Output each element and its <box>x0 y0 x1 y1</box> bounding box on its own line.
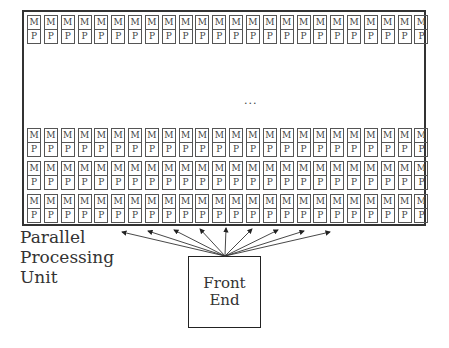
memory-cell: M <box>213 195 225 209</box>
processor-cell: P <box>62 209 74 222</box>
processor-cell: P <box>382 143 394 156</box>
label-line: Processing <box>20 247 114 267</box>
processor-cell: P <box>247 176 259 189</box>
broadcast-arrow <box>225 228 226 256</box>
processing-element: MP <box>61 194 75 223</box>
processing-element: MP <box>44 128 58 157</box>
processing-element: MP <box>364 128 378 157</box>
processor-cell: P <box>95 209 107 222</box>
label-line: Unit <box>20 267 114 287</box>
processing-element: MP <box>27 15 41 44</box>
parallel-processing-unit: MPMPMPMPMPMPMPMPMPMPMPMPMPMPMPMPMPMPMPMP… <box>22 10 426 226</box>
processing-element: MP <box>94 194 108 223</box>
processing-element: MP <box>414 161 428 190</box>
memory-cell: M <box>45 16 57 30</box>
processing-element: MP <box>212 128 226 157</box>
processor-cell: P <box>95 30 107 43</box>
processor-cell: P <box>146 176 158 189</box>
memory-cell: M <box>281 195 293 209</box>
processor-cell: P <box>62 30 74 43</box>
processor-cell: P <box>247 143 259 156</box>
processing-element: MP <box>179 161 193 190</box>
processor-cell: P <box>247 209 259 222</box>
processor-cell: P <box>281 209 293 222</box>
processor-cell: P <box>331 176 343 189</box>
processing-element: MP <box>297 15 311 44</box>
processor-cell: P <box>45 176 57 189</box>
pe-row: MPMPMPMPMPMPMPMPMPMPMPMPMPMPMPMPMPMPMPMP… <box>27 128 431 157</box>
processing-element: MP <box>128 194 142 223</box>
memory-cell: M <box>230 162 242 176</box>
memory-cell: M <box>415 16 427 30</box>
memory-cell: M <box>79 195 91 209</box>
processing-element: MP <box>111 194 125 223</box>
processing-element: MP <box>78 194 92 223</box>
processor-cell: P <box>180 30 192 43</box>
processor-cell: P <box>264 143 276 156</box>
memory-cell: M <box>180 129 192 143</box>
memory-cell: M <box>79 16 91 30</box>
memory-cell: M <box>62 162 74 176</box>
memory-cell: M <box>365 162 377 176</box>
processing-element: MP <box>313 161 327 190</box>
processing-element: MP <box>195 194 209 223</box>
processor-cell: P <box>399 30 411 43</box>
memory-cell: M <box>79 162 91 176</box>
memory-cell: M <box>281 129 293 143</box>
memory-cell: M <box>331 129 343 143</box>
memory-cell: M <box>298 16 310 30</box>
memory-cell: M <box>180 162 192 176</box>
processing-element: MP <box>179 194 193 223</box>
processor-cell: P <box>196 30 208 43</box>
memory-cell: M <box>264 16 276 30</box>
processor-cell: P <box>28 209 40 222</box>
memory-cell: M <box>129 16 141 30</box>
processor-cell: P <box>281 30 293 43</box>
processor-cell: P <box>95 176 107 189</box>
processor-cell: P <box>348 176 360 189</box>
processing-element: MP <box>162 194 176 223</box>
memory-cell: M <box>399 16 411 30</box>
memory-cell: M <box>196 195 208 209</box>
memory-cell: M <box>28 195 40 209</box>
memory-cell: M <box>314 195 326 209</box>
memory-cell: M <box>112 129 124 143</box>
processing-element: MP <box>246 194 260 223</box>
processing-element: MP <box>398 128 412 157</box>
memory-cell: M <box>331 162 343 176</box>
processing-element: MP <box>61 128 75 157</box>
processing-element: MP <box>246 161 260 190</box>
processing-element: MP <box>61 15 75 44</box>
processing-element: MP <box>111 161 125 190</box>
processor-cell: P <box>264 30 276 43</box>
processing-element: MP <box>381 161 395 190</box>
processor-cell: P <box>196 176 208 189</box>
processor-cell: P <box>180 176 192 189</box>
processing-element: MP <box>414 15 428 44</box>
processing-element: MP <box>27 194 41 223</box>
memory-cell: M <box>112 16 124 30</box>
processor-cell: P <box>382 30 394 43</box>
pe-row: MPMPMPMPMPMPMPMPMPMPMPMPMPMPMPMPMPMPMPMP… <box>27 194 431 223</box>
processing-element: MP <box>246 15 260 44</box>
memory-cell: M <box>348 129 360 143</box>
processor-cell: P <box>79 30 91 43</box>
processor-cell: P <box>298 176 310 189</box>
broadcast-arrow <box>122 232 225 256</box>
memory-cell: M <box>331 16 343 30</box>
front-end-label-line: Front <box>203 275 245 292</box>
memory-cell: M <box>28 162 40 176</box>
processor-cell: P <box>365 176 377 189</box>
processor-cell: P <box>28 30 40 43</box>
processor-cell: P <box>213 176 225 189</box>
memory-cell: M <box>62 195 74 209</box>
processor-cell: P <box>399 176 411 189</box>
memory-cell: M <box>247 16 259 30</box>
front-end-box: Front End <box>188 256 261 328</box>
processing-element: MP <box>94 128 108 157</box>
processor-cell: P <box>180 209 192 222</box>
processor-cell: P <box>298 209 310 222</box>
processing-element: MP <box>212 15 226 44</box>
processing-element: MP <box>280 15 294 44</box>
memory-cell: M <box>281 162 293 176</box>
